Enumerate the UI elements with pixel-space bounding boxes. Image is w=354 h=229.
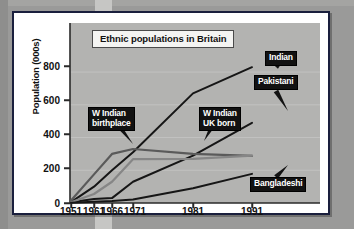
callout-indian: Indian — [265, 51, 297, 66]
background-stripe-left — [0, 0, 8, 229]
chart-card: Population (000s) 0 200 400 600 800 1951… — [12, 11, 330, 215]
callout-bangladeshi: Bangladeshi — [250, 177, 306, 192]
callout-w-indian-birthplace: W Indian birthplace — [88, 107, 135, 131]
callout-pakistani: Pakistani — [254, 75, 298, 90]
chart-title: Ethnic populations in Britain — [92, 30, 234, 48]
background-stripe-top — [0, 0, 354, 6]
callout-w-indian-uk-born: W Indian UK born — [199, 107, 241, 131]
